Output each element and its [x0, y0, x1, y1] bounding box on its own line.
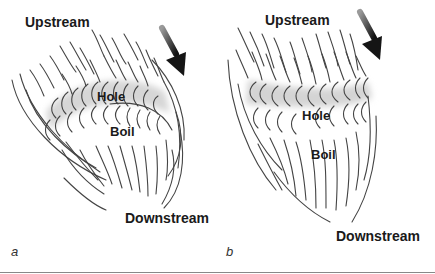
- label-downstream-b: Downstream: [336, 228, 420, 244]
- label-upstream-a: Upstream: [25, 14, 90, 30]
- panel-a-diagram: [12, 28, 186, 210]
- label-hole-b: Hole: [302, 108, 330, 123]
- label-boil-a: Boil: [110, 124, 135, 139]
- bottom-divider: [0, 272, 435, 273]
- flow-arrow-a: [162, 28, 186, 76]
- label-hole-a: Hole: [97, 89, 125, 104]
- label-boil-b: Boil: [311, 147, 336, 162]
- panel-letter-b: b: [226, 244, 233, 259]
- panel-letter-a: a: [11, 244, 18, 259]
- label-upstream-b: Upstream: [265, 12, 330, 28]
- hole-band: [46, 80, 170, 130]
- label-downstream-a: Downstream: [125, 210, 209, 226]
- flow-arrow-b: [360, 12, 382, 60]
